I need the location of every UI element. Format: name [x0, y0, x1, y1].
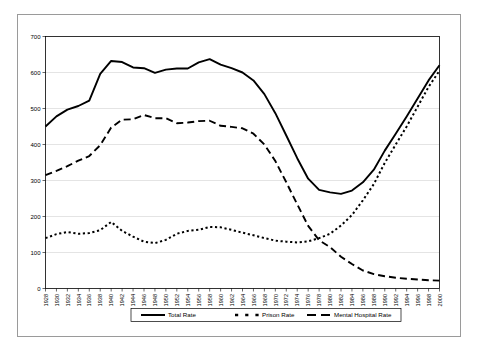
y-tick-label: 600	[30, 70, 41, 76]
gridlines	[46, 73, 440, 253]
x-tick-label: 1986	[360, 294, 366, 306]
data-series	[46, 59, 440, 280]
x-tick-label: 1968	[262, 294, 268, 306]
figure-container: 0100200300400500600700 19281930193219341…	[0, 0, 480, 353]
y-tick-label: 300	[30, 178, 41, 184]
x-axis-ticks	[46, 289, 440, 292]
x-tick-label: 1998	[426, 294, 432, 306]
x-axis-tick-labels: 1928193019321934193619381940194219441946…	[43, 294, 443, 306]
x-tick-label: 1948	[152, 294, 158, 306]
x-tick-label: 1952	[174, 294, 180, 306]
x-tick-label: 1950	[163, 294, 169, 306]
x-tick-label: 1942	[119, 294, 125, 306]
x-tick-label: 1934	[76, 294, 82, 306]
x-tick-label: 1978	[316, 294, 322, 306]
plot-area-border	[46, 37, 440, 289]
x-tick-label: 1960	[218, 294, 224, 306]
y-tick-label: 0	[37, 286, 41, 292]
x-tick-label: 1982	[338, 294, 344, 306]
chart-legend: Total RatePrison RateMental Hospital Rat…	[131, 309, 401, 322]
x-tick-label: 1956	[196, 294, 202, 306]
x-tick-label: 1928	[43, 294, 49, 306]
y-tick-label: 700	[30, 34, 41, 40]
x-tick-label: 1944	[130, 294, 136, 306]
legend-label-prison-rate: Prison Rate	[262, 311, 295, 318]
series-line-mental-hospital-rate	[46, 115, 440, 281]
x-tick-label: 1980	[327, 294, 333, 306]
x-tick-label: 1954	[185, 294, 191, 306]
y-axis-tick-labels: 0100200300400500600700	[30, 34, 41, 292]
y-tick-label: 100	[30, 250, 41, 256]
x-tick-label: 1992	[393, 294, 399, 306]
x-tick-label: 1994	[404, 294, 410, 306]
x-tick-label: 1990	[382, 294, 388, 306]
y-tick-label: 500	[30, 106, 41, 112]
y-tick-label: 200	[30, 214, 41, 220]
x-tick-label: 1970	[273, 294, 279, 306]
x-tick-label: 1938	[97, 294, 103, 306]
y-tick-label: 400	[30, 142, 41, 148]
y-axis-ticks	[43, 37, 46, 289]
x-tick-label: 1972	[283, 294, 289, 306]
x-tick-label: 1936	[86, 294, 92, 306]
x-tick-label: 1966	[251, 294, 257, 306]
x-tick-label: 1974	[294, 294, 300, 306]
x-tick-label: 1984	[349, 294, 355, 306]
x-tick-label: 1996	[415, 294, 421, 306]
series-line-total-rate	[46, 59, 440, 194]
x-tick-label: 1946	[141, 294, 147, 306]
legend-label-mental-hospital-rate: Mental Hospital Rate	[334, 311, 392, 318]
x-tick-label: 1962	[229, 294, 235, 306]
x-tick-label: 1964	[240, 294, 246, 306]
x-tick-label: 1958	[207, 294, 213, 306]
x-tick-label: 2000	[437, 294, 443, 306]
x-tick-label: 1988	[371, 294, 377, 306]
line-chart: 0100200300400500600700 19281930193219341…	[0, 0, 480, 353]
x-tick-label: 1930	[54, 294, 60, 306]
x-tick-label: 1976	[305, 294, 311, 306]
x-tick-label: 1932	[65, 294, 71, 306]
legend-label-total-rate: Total Rate	[168, 311, 196, 318]
x-tick-label: 1940	[108, 294, 114, 306]
